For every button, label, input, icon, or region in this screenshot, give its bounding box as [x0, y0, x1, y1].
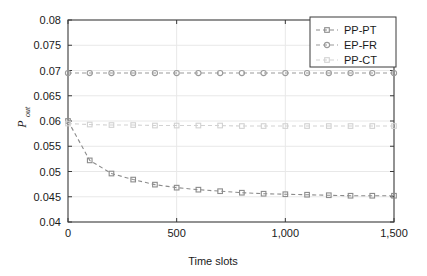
series-pp-ct	[66, 121, 397, 128]
y-axis-label: P out	[15, 106, 32, 129]
x-axis-label-text: Time slots	[188, 255, 238, 267]
series-line	[68, 124, 394, 127]
y-tick-label: 0.045	[33, 191, 61, 203]
chart-plot-svg: 05001,0001,500 0.040.0450.050.0550.060.0…	[0, 0, 427, 276]
y-tick-label: 0.075	[33, 39, 61, 51]
y-tick-label: 0.04	[40, 216, 61, 228]
data-series	[65, 70, 396, 198]
y-axis-label-sub: out	[23, 106, 32, 117]
y-tick-label: 0.06	[40, 115, 61, 127]
x-tick-label: 500	[167, 227, 185, 239]
chart-legend[interactable]: PP-PTEP-FRPP-CT	[310, 17, 396, 67]
y-tick-label: 0.08	[40, 14, 61, 26]
series-pp-pt	[66, 119, 397, 198]
x-tick-label: 0	[65, 227, 71, 239]
legend-item-label: EP-FR	[344, 39, 377, 51]
x-axis-label: Time slots	[188, 255, 238, 267]
series-ep-fr	[65, 70, 396, 75]
y-axis-label-main: P	[15, 120, 29, 129]
y-tick-label: 0.055	[33, 140, 61, 152]
x-tick-label: 1,500	[380, 227, 408, 239]
chart-figure: 05001,0001,500 0.040.0450.050.0550.060.0…	[0, 0, 427, 276]
legend-item-label: PP-PT	[344, 24, 377, 36]
x-tick-label: 1,000	[272, 227, 300, 239]
y-tick-label: 0.065	[33, 90, 61, 102]
legend-item-label: PP-CT	[344, 54, 377, 66]
y-tick-label: 0.05	[40, 166, 61, 178]
y-tick-label: 0.07	[40, 65, 61, 77]
series-line	[68, 121, 394, 196]
